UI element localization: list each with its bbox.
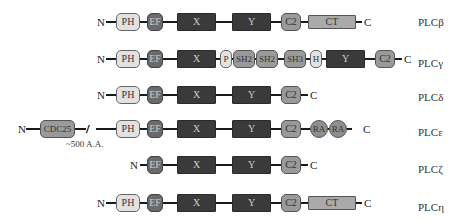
isoform-label-delta: PLCδ — [418, 89, 443, 105]
domain-cdc25: CDC25 — [40, 120, 75, 138]
c-terminus: C — [364, 195, 371, 211]
c-terminus: C — [310, 87, 317, 103]
isoform-label-eta: PLCη — [418, 199, 444, 215]
row-plc-delta: N PH EF X Y C2 C PLCδ — [0, 83, 464, 107]
n-terminus: N — [97, 195, 105, 211]
domain-x: X — [177, 156, 216, 174]
n-terminus: N — [97, 87, 105, 103]
domain-sh3: SH3 — [284, 50, 306, 68]
domain-c2: C2 — [281, 86, 301, 104]
domain-c2: C2 — [281, 156, 301, 174]
domain-x: X — [177, 194, 216, 212]
sequence-break-mark: // — [86, 122, 87, 136]
domain-y: Y — [326, 50, 365, 68]
domain-x: X — [177, 50, 216, 68]
n-terminus: N — [130, 157, 138, 173]
domain-sh2-first: SH2 — [233, 50, 255, 68]
c-terminus: C — [363, 121, 370, 137]
domain-x: X — [177, 120, 216, 138]
domain-y: Y — [232, 194, 271, 212]
domain-x: X — [177, 13, 216, 31]
n-terminus: N — [97, 14, 105, 30]
domain-c2: C2 — [281, 120, 301, 138]
domain-ra-first: RA — [310, 120, 328, 138]
domain-ph: PH — [116, 120, 140, 138]
domain-c2: C2 — [375, 50, 395, 68]
domain-y: Y — [232, 156, 271, 174]
domain-ef: EF — [147, 86, 163, 104]
domain-y: Y — [232, 120, 271, 138]
domain-ra-second: RA — [329, 120, 347, 138]
n-terminus: N — [97, 51, 105, 67]
domain-ef: EF — [147, 50, 163, 68]
domain-c2: C2 — [281, 194, 301, 212]
row-plc-beta: N PH EF X Y C2 CT C PLCβ — [0, 10, 464, 34]
domain-ef: EF — [147, 194, 163, 212]
domain-ph: PH — [116, 194, 140, 212]
domain-c2: C2 — [281, 13, 301, 31]
row-plc-epsilon: N CDC25 // PH EF X Y C2 RA RA C PLCε ~50… — [0, 117, 464, 141]
domain-y: Y — [232, 86, 271, 104]
isoform-label-zeta: PLCζ — [418, 161, 443, 177]
c-terminus: C — [404, 51, 411, 67]
domain-ct: CT — [308, 196, 356, 210]
gap-annotation: ~500 A.A. — [66, 139, 104, 149]
domain-h: H — [310, 50, 322, 68]
domain-ct: CT — [308, 15, 356, 29]
domain-ph: PH — [116, 86, 140, 104]
row-plc-zeta: N EF X Y C2 C PLCζ — [0, 153, 464, 177]
domain-sh2-second: SH2 — [256, 50, 278, 68]
domain-ef: EF — [147, 120, 163, 138]
c-terminus: C — [364, 14, 371, 30]
domain-x: X — [177, 86, 216, 104]
row-plc-gamma: N PH EF X P SH2 SH2 SH3 H Y C2 C PLCγ — [0, 47, 464, 71]
domain-y: Y — [232, 13, 271, 31]
isoform-label-gamma: PLCγ — [418, 55, 443, 71]
n-terminus: N — [18, 121, 26, 137]
isoform-label-epsilon: PLCε — [418, 124, 443, 140]
domain-ph: PH — [116, 13, 140, 31]
domain-ph: PH — [116, 50, 140, 68]
domain-p: P — [220, 50, 232, 68]
row-plc-eta: N PH EF X Y C2 CT C PLCη — [0, 191, 464, 215]
domain-ef: EF — [147, 13, 163, 31]
c-terminus: C — [310, 157, 317, 173]
isoform-label-beta: PLCβ — [418, 14, 444, 30]
domain-ef: EF — [147, 156, 163, 174]
plc-domain-diagram: N PH EF X Y C2 CT C PLCβ N PH EF X P SH2… — [0, 0, 464, 222]
